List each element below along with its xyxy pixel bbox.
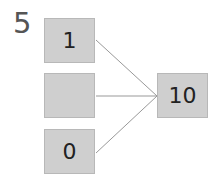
output-box: 10: [157, 73, 208, 118]
input-box-2: [44, 73, 95, 118]
input-box-3: 0: [44, 129, 95, 174]
input-box-1: 1: [44, 18, 95, 63]
